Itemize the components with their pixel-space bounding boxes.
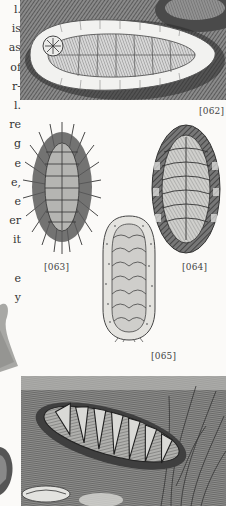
text-line: re xyxy=(0,115,22,134)
text-line: l. xyxy=(0,0,22,19)
text-line: e, xyxy=(0,173,22,192)
figure-062-engraving xyxy=(20,0,226,102)
figure-label-062: [062] xyxy=(199,106,224,116)
text-line: r- xyxy=(0,77,22,96)
figure-064-engraving xyxy=(150,122,222,256)
text-line: e xyxy=(0,154,22,173)
figure-label-064: [064] xyxy=(182,262,207,272)
text-line: it xyxy=(0,230,22,249)
text-line: g xyxy=(0,134,22,153)
figure-label-065: [065] xyxy=(151,351,176,361)
text-line: of xyxy=(0,58,22,77)
text-line: e xyxy=(0,269,22,288)
text-line: l. xyxy=(0,96,22,115)
body-text-column: l. is as of r- l. re g e e, e er it e y xyxy=(0,0,22,307)
partial-figure-left-upper xyxy=(0,300,20,372)
figure-label-063: [063] xyxy=(44,262,69,272)
text-line: e xyxy=(0,192,22,211)
text-line: is xyxy=(0,19,22,38)
text-line: as xyxy=(0,38,22,57)
partial-figure-left-lower xyxy=(0,445,16,495)
figure-065-engraving xyxy=(100,214,158,342)
text-line: er xyxy=(0,211,22,230)
figure-063-engraving xyxy=(22,120,102,255)
text-line xyxy=(0,249,22,268)
figure-066-engraving xyxy=(21,376,226,506)
book-page: l. is as of r- l. re g e e, e er it e y xyxy=(0,0,226,506)
